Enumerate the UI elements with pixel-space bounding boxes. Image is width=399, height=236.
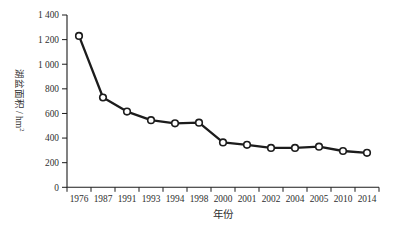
y-axis-title-superscript: 2 xyxy=(19,128,26,131)
data-point-marker xyxy=(76,33,83,40)
y-tick-label: 0 xyxy=(54,183,59,193)
x-tick-label: 2004 xyxy=(286,194,305,204)
x-tick-label: 1994 xyxy=(166,194,185,204)
y-tick-label: 200 xyxy=(45,158,59,168)
x-tick-label: 1976 xyxy=(70,194,89,204)
x-tick-label: 2014 xyxy=(358,194,377,204)
data-point-marker xyxy=(220,139,227,146)
data-point-marker xyxy=(100,94,107,101)
data-point-marker xyxy=(292,145,299,152)
y-tick-label: 400 xyxy=(45,133,59,143)
data-point-marker xyxy=(364,150,371,157)
x-tick-label: 1991 xyxy=(118,194,137,204)
y-tick-label: 1 200 xyxy=(38,35,59,45)
y-axis-title-text: 湖盆面积 / hm xyxy=(14,69,24,129)
x-tick-label: 2002 xyxy=(262,194,281,204)
data-point-marker xyxy=(196,119,203,126)
x-tick-label: 2001 xyxy=(238,194,257,204)
y-axis-title: 湖盆面积 / hm2 xyxy=(13,69,27,132)
data-point-marker xyxy=(340,148,347,155)
data-point-marker xyxy=(244,142,251,149)
y-tick-label: 1 400 xyxy=(38,10,59,20)
y-tick-label: 1 000 xyxy=(38,60,59,70)
data-point-marker xyxy=(124,108,131,115)
data-point-marker xyxy=(172,120,179,127)
x-tick-label: 2010 xyxy=(334,194,353,204)
x-axis-title: 年份 xyxy=(67,206,379,221)
y-tick-label: 600 xyxy=(45,109,59,119)
x-tick-label: 2000 xyxy=(214,194,233,204)
series-line xyxy=(79,36,367,153)
data-point-marker xyxy=(148,117,155,124)
axis-lines xyxy=(67,15,379,187)
data-point-marker xyxy=(268,145,275,152)
chart-canvas: 02004006008001 0001 2001 400197619871991… xyxy=(0,0,399,236)
x-tick-label: 1993 xyxy=(142,194,161,204)
x-tick-label: 2005 xyxy=(310,194,329,204)
y-tick-label: 800 xyxy=(45,84,59,94)
lake-area-line-chart: 02004006008001 0001 2001 400197619871991… xyxy=(0,0,399,236)
x-tick-label: 1987 xyxy=(94,194,113,204)
x-tick-label: 1998 xyxy=(190,194,209,204)
data-point-marker xyxy=(316,143,323,150)
